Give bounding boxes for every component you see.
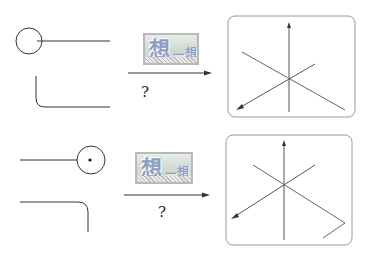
top-bent-line-figure [36, 76, 110, 107]
bottom-arrow [124, 193, 210, 198]
top-circle-line-figure [16, 28, 110, 54]
bottom-circle-dot-figure [20, 146, 105, 174]
top-result-box [228, 16, 355, 117]
badge-stripe [145, 57, 197, 63]
badge-stripe [137, 176, 191, 182]
question-mark-top: ? [141, 83, 149, 101]
question-mark-bottom: ? [158, 203, 166, 221]
think-badge-top: 想 一 想 [143, 33, 199, 65]
bottom-result-box [226, 135, 352, 245]
top-arrow [128, 71, 212, 76]
bottom-bent-line-figure [20, 202, 88, 232]
think-badge-bottom: 想 一 想 [135, 152, 193, 184]
